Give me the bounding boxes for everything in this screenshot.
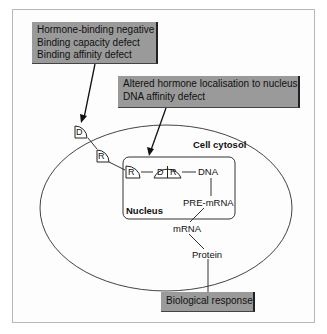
complex-receptor-label: R bbox=[170, 167, 177, 177]
hormone-binding-callout: Hormone-binding negative Binding capacit… bbox=[32, 22, 158, 64]
callout-line: Binding affinity defect bbox=[37, 49, 152, 62]
complex-hormone-label: D bbox=[157, 167, 164, 177]
nuclear-defect-callout: Altered hormone localisation to nucleus … bbox=[118, 76, 300, 108]
pre-mrna-label: PRE-mRNA bbox=[183, 197, 234, 208]
callout-line: Biological response bbox=[166, 295, 249, 308]
mrna-label: mRNA bbox=[173, 223, 201, 234]
biological-response-callout: Biological response bbox=[161, 292, 255, 312]
cell-membrane bbox=[40, 125, 292, 291]
hormone-label: D bbox=[76, 127, 83, 137]
callout-line: Binding capacity defect bbox=[37, 37, 152, 50]
callout-line: DNA affinity defect bbox=[123, 91, 294, 104]
dna-label: DNA bbox=[198, 166, 218, 177]
callout-line: Altered hormone localisation to nucleus bbox=[123, 78, 294, 91]
protein-label: Protein bbox=[192, 249, 222, 260]
nuclear-receptor-label: R bbox=[128, 167, 135, 177]
receptor-label: R bbox=[98, 151, 105, 161]
callout-line: Hormone-binding negative bbox=[37, 24, 152, 37]
cell-cytosol-label: Cell cytosol bbox=[193, 139, 246, 150]
nucleus-label: Nucleus bbox=[126, 205, 163, 216]
